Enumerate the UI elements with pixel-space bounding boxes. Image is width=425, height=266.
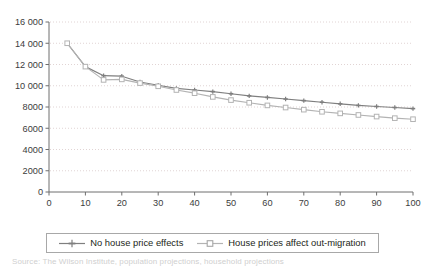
data-point-marker: [247, 100, 252, 105]
data-point-marker: [247, 94, 251, 98]
x-axis-tick-label: 100: [405, 198, 420, 208]
y-axis-tick-label: 10 000: [15, 81, 43, 91]
data-point-marker: [338, 102, 342, 106]
y-axis-tick-label: 6000: [23, 124, 43, 134]
data-point-marker: [192, 91, 197, 96]
data-point-marker: [65, 41, 70, 46]
data-series-layer: [65, 41, 415, 122]
line-chart: 0200040006000800010 00012 00014 00016 00…: [0, 0, 425, 212]
data-point-marker: [283, 105, 288, 110]
y-axis-tick-label: 16 000: [15, 17, 43, 27]
data-point-marker: [156, 84, 161, 89]
data-point-marker: [302, 107, 307, 112]
legend-swatch-cross-icon: [59, 238, 85, 249]
x-axis-tick-label: 0: [46, 198, 51, 208]
legend-item-label: No house price effects: [90, 238, 183, 247]
data-point-marker: [338, 111, 343, 116]
x-axis-ticks: [49, 192, 413, 196]
legend-swatch-square-icon: [197, 238, 223, 249]
legend-item-no-house-price-effects[interactable]: No house price effects: [59, 238, 183, 249]
data-point-marker: [120, 77, 125, 82]
data-point-marker: [374, 104, 378, 108]
data-point-marker: [229, 92, 233, 96]
data-point-marker: [138, 81, 143, 86]
data-point-marker: [174, 88, 179, 93]
data-point-marker: [211, 95, 216, 100]
data-point-marker: [411, 117, 416, 122]
y-axis-tick-label: 14 000: [15, 39, 43, 49]
data-point-marker: [101, 78, 106, 83]
x-axis-tick-label: 30: [153, 198, 163, 208]
x-axis-tick-labels: 0102030405060708090100: [46, 198, 420, 208]
gridlines: [50, 22, 413, 171]
x-axis-tick-label: 70: [299, 198, 309, 208]
data-point-marker: [211, 89, 215, 93]
data-point-marker: [265, 95, 269, 99]
y-axis-tick-label: 4000: [23, 145, 43, 155]
x-axis-tick-label: 60: [262, 198, 272, 208]
data-point-marker: [393, 105, 397, 109]
x-axis-tick-label: 40: [189, 198, 199, 208]
y-axis-ticks: [46, 22, 50, 192]
data-point-marker: [83, 64, 88, 69]
y-axis-tick-label: 2000: [23, 166, 43, 176]
y-axis-tick-label: 0: [38, 187, 43, 197]
x-axis-tick-label: 10: [80, 198, 90, 208]
x-axis-tick-label: 50: [226, 198, 236, 208]
data-point-marker: [320, 109, 325, 114]
x-axis-tick-label: 80: [335, 198, 345, 208]
data-point-marker: [283, 97, 287, 101]
data-point-marker: [302, 98, 306, 102]
data-point-marker: [393, 116, 398, 121]
legend-item-house-prices-affect-out-migration[interactable]: House prices affect out-migration: [197, 238, 365, 249]
figure: 0200040006000800010 00012 00014 00016 00…: [0, 0, 425, 266]
y-axis-tick-label: 12 000: [15, 60, 43, 70]
data-series-1: [65, 41, 415, 111]
data-point-marker: [411, 106, 415, 110]
data-point-marker: [374, 114, 379, 119]
legend-item-label: House prices affect out-migration: [228, 238, 365, 247]
x-axis-tick-label: 90: [371, 198, 381, 208]
caption-text: Source: The Wilson Institute, population…: [12, 258, 412, 266]
data-point-marker: [320, 100, 324, 104]
caption-sliver: Source: The Wilson Institute, population…: [12, 258, 412, 266]
data-point-marker: [229, 98, 234, 103]
y-axis-tick-labels: 0200040006000800010 00012 00014 00016 00…: [15, 17, 43, 197]
data-point-marker: [265, 103, 270, 108]
y-axis-tick-label: 8000: [23, 102, 43, 112]
chart-legend: No house price effects House prices affe…: [46, 233, 379, 253]
x-axis-tick-label: 20: [117, 198, 127, 208]
chart-svg: 0200040006000800010 00012 00014 00016 00…: [0, 0, 425, 212]
data-point-marker: [356, 113, 361, 118]
data-series-2: [65, 41, 415, 122]
